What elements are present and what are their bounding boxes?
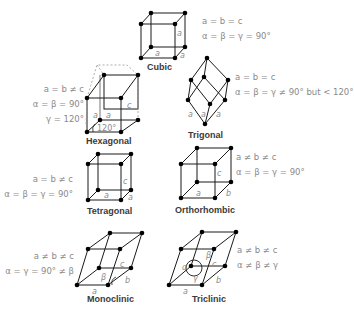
svg-text:β: β [205,251,211,260]
monoclinic-cell [77,233,142,285]
system-name-monoclinic: Monoclinic [87,294,134,304]
orthorhombic-cell [181,148,231,198]
svg-text:a: a [196,189,201,198]
svg-text:120°: 120° [97,124,116,133]
tetragonal-equations: a = b ≠ cα = β = γ = 90° [0,172,73,202]
svg-text:a: a [93,111,98,120]
system-name-hexagonal: Hexagonal [86,136,132,146]
triclinic-equations: a ≠ b ≠ cα ≠ β ≠ γ [237,243,278,273]
trigonal-cell [188,58,228,124]
svg-text:β: β [100,273,106,282]
monoclinic-equations: a ≠ b ≠ cα = γ = 90° ≠ β [0,249,74,279]
system-name-triclinic: Triclinic [192,294,226,304]
orthorhombic-equations: a ≠ b ≠ cα = β = γ = 90° [236,150,305,180]
svg-text:b: b [216,276,221,285]
svg-text:α: α [182,263,188,272]
cubic-equations: a = b = cα = β = γ = 90° [202,14,271,44]
system-name-cubic: Cubic [147,62,172,72]
svg-text:b: b [226,189,231,198]
hexagonal-equations: a = b ≠ cα = β = 90°γ = 120° [4,82,84,127]
svg-text:a: a [180,51,185,60]
svg-text:a: a [177,29,182,38]
svg-text:a: a [128,193,133,202]
hexagonal-cell [86,65,138,132]
trigonal-equations: a = b = cα = β = γ ≠ 90° but < 120° [235,70,354,100]
svg-text:b: b [125,276,130,285]
system-name-trigonal: Trigonal [188,130,223,140]
svg-text:a: a [188,110,193,119]
svg-text:c: c [120,260,125,269]
svg-text:a: a [201,110,206,119]
svg-text:c: c [127,101,132,110]
svg-text:a: a [216,110,221,119]
svg-text:a: a [104,191,109,200]
svg-text:a: a [106,111,111,120]
svg-text:c: c [212,260,217,269]
svg-text:c: c [123,177,128,186]
edge-label: a [155,49,160,58]
system-name-orthorhombic: Orthorhombic [175,205,235,215]
svg-text:a: a [183,287,188,296]
system-name-tetragonal: Tetragonal [87,206,132,216]
triclinic-cell [169,232,236,285]
svg-text:c: c [217,169,222,178]
